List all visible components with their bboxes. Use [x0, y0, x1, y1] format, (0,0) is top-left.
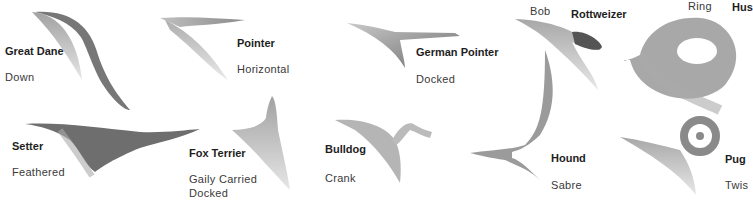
great-dane-tail-type-label: Down [5, 71, 34, 84]
rottweiler-tail-type-label: Bob [530, 5, 550, 18]
setter-tail-type-label: Feathered [12, 166, 65, 179]
setter-breed-label: Setter [12, 140, 43, 153]
fox-terrier-breed-label: Fox Terrier [189, 147, 246, 160]
husky-tail-type-label: Ring [688, 0, 712, 13]
husky-ring-tail-illustration [624, 18, 737, 110]
fox-terrier-tail-type-label: Gaily Carried [189, 173, 257, 186]
pointer-tail-illustration [160, 17, 245, 80]
pug-tail-type-label: Twis [725, 179, 748, 192]
bulldog-tail-type-label: Crank [325, 172, 356, 185]
german-pointer-breed-label: German Pointer [416, 46, 499, 59]
fox-terrier-tail-type2-label: Docked [189, 187, 228, 200]
bulldog-breed-label: Bulldog [325, 143, 366, 156]
husky-breed-label: Hus [732, 1, 753, 14]
hound-breed-label: Hound [551, 152, 586, 165]
pug-breed-label: Pug [725, 153, 746, 166]
german-pointer-tail-type-label: Docked [416, 73, 455, 86]
rottweiler-tail-illustration [515, 19, 602, 90]
tail-illustrations [0, 0, 753, 204]
great-dane-breed-label: Great Dane [5, 45, 64, 58]
pointer-breed-label: Pointer [237, 37, 275, 50]
hound-tail-illustration [470, 50, 553, 180]
pug-tail-illustration [620, 120, 716, 195]
great-dane-tail-illustration [32, 12, 130, 110]
rottweiler-breed-label: Rottweizer [571, 8, 627, 21]
hound-tail-type-label: Sabre [551, 179, 582, 192]
pointer-tail-type-label: Horizontal [237, 63, 290, 76]
